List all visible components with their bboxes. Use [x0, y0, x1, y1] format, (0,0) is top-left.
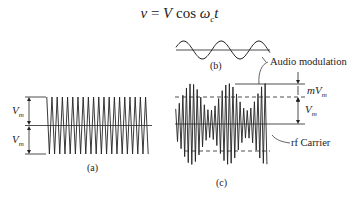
- audio-leader-tick: [262, 57, 266, 62]
- audio-leader-line: [259, 62, 268, 84]
- panel-a-upper-vm-label: Vm: [12, 105, 24, 119]
- panel-b-caption: (b): [210, 61, 222, 71]
- panel-c-mvm-label: mVm: [307, 85, 327, 99]
- am-modulation-figure: v = V cos ωct: [0, 0, 359, 197]
- panel-c-vm-label: Vm: [305, 104, 317, 118]
- audio-modulation-label: Audio modulation: [270, 57, 347, 68]
- diagram-graphics: [0, 0, 359, 197]
- panel-a-caption: (a): [87, 163, 98, 173]
- panel-a-lower-vm-label: Vm: [12, 134, 24, 148]
- panel-c-caption: (c): [216, 178, 227, 188]
- carrier-leader-line: [272, 135, 290, 143]
- rf-carrier-label: rf Carrier: [291, 138, 330, 149]
